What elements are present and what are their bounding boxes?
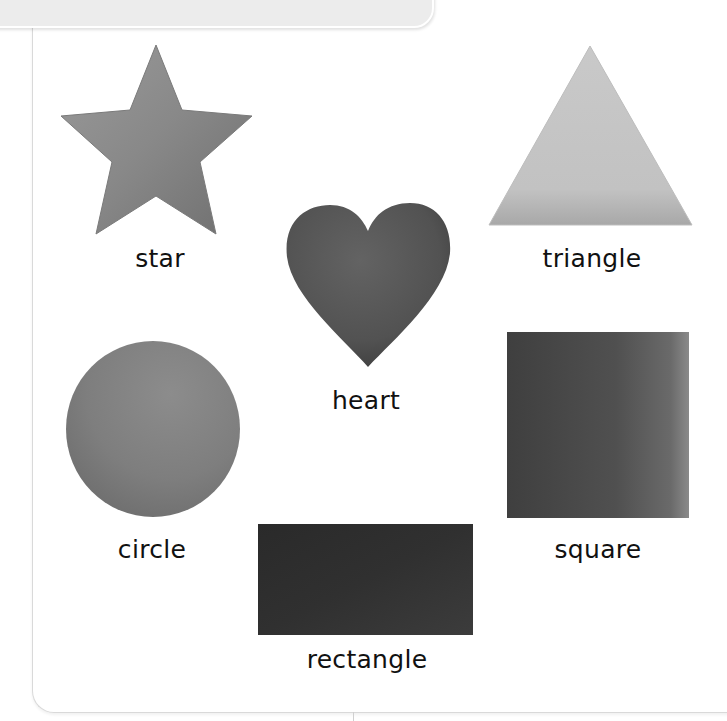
heart-label: heart <box>332 386 400 415</box>
square-shape <box>507 332 689 518</box>
divider <box>353 712 354 721</box>
circle-label: circle <box>118 535 186 564</box>
star-label: star <box>135 244 185 273</box>
header-bar <box>0 0 434 28</box>
triangle-label: triangle <box>543 244 642 273</box>
circle-shape <box>64 339 242 519</box>
worksheet-page: star triangle heart <box>0 0 727 721</box>
rectangle-label: rectangle <box>307 645 428 674</box>
heart-shape <box>284 201 454 371</box>
square-label: square <box>555 535 642 564</box>
star-shape <box>58 42 256 238</box>
triangle-shape <box>486 43 696 229</box>
rectangle-shape <box>258 524 473 635</box>
